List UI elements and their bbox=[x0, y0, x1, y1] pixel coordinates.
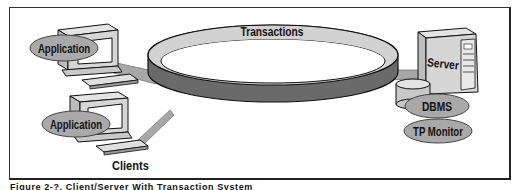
application-label-1: Application bbox=[38, 42, 90, 55]
figure-caption: Figure 2-?. Client/Server With Transacti… bbox=[10, 182, 253, 190]
ring-label: Transactions bbox=[241, 25, 304, 38]
tp-monitor-badge: TP Monitor bbox=[404, 119, 472, 143]
dbms-label: DBMS bbox=[422, 100, 452, 113]
dbms-badge: DBMS bbox=[405, 94, 469, 118]
application-label-2: Application bbox=[50, 118, 102, 131]
diagram-canvas: Transactions Application Application bbox=[0, 0, 521, 190]
application-badge-2: Application bbox=[42, 111, 110, 137]
clients-label: Clients bbox=[112, 158, 149, 173]
application-badge-1: Application bbox=[30, 35, 98, 61]
tp-monitor-label: TP Monitor bbox=[413, 125, 464, 138]
connector-client2-ring bbox=[138, 110, 174, 146]
